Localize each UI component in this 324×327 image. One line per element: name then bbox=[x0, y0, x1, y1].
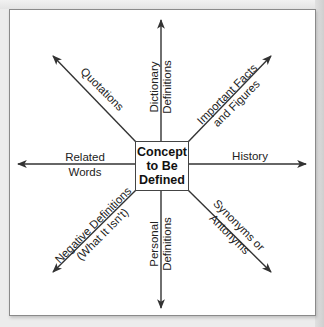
center-line-3: Defined bbox=[137, 173, 187, 187]
center-line-2: to Be bbox=[137, 159, 187, 173]
center-concept-box: Concept to Be Defined bbox=[135, 141, 189, 191]
label-line: Related bbox=[45, 150, 125, 164]
label-line: Definitions bbox=[161, 39, 174, 135]
label-line: Dictionary bbox=[148, 39, 161, 135]
label-dictionary-definitions: Dictionary Definitions bbox=[148, 39, 174, 135]
label-line: Personal bbox=[148, 196, 161, 292]
arrow-upper-left bbox=[53, 56, 136, 142]
label-line: Definitions bbox=[161, 196, 174, 292]
label-personal-definitions: Personal Definitions bbox=[148, 196, 174, 292]
label-related-words: Related Words bbox=[45, 150, 125, 179]
center-line-1: Concept bbox=[137, 145, 187, 159]
label-history: History bbox=[210, 150, 290, 163]
label-line: Words bbox=[45, 165, 125, 179]
label-line: History bbox=[210, 150, 290, 163]
